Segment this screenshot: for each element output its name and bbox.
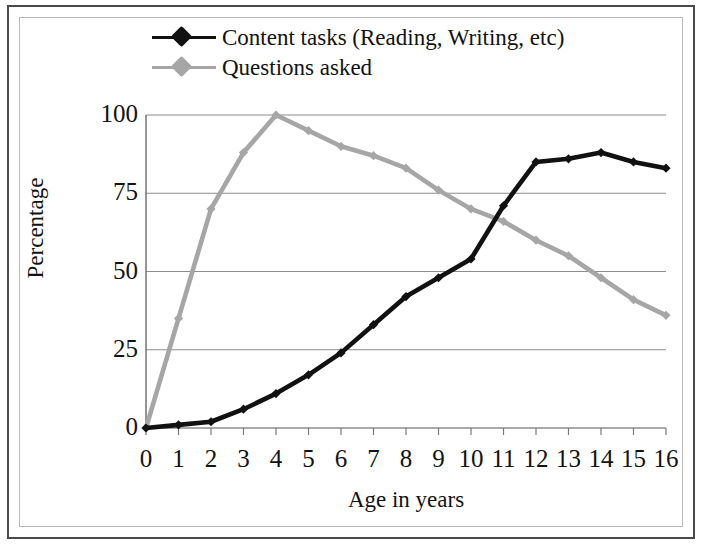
- data-point-marker: [564, 154, 573, 163]
- chart-figure: Content tasks (Reading, Writing, etc) Qu…: [0, 0, 702, 545]
- y-tick-label: 100: [78, 101, 138, 126]
- series-line: [146, 153, 666, 428]
- data-point-marker: [661, 164, 670, 173]
- y-axis-title: Percentage: [23, 148, 49, 308]
- y-tick-label: 0: [78, 414, 138, 439]
- x-axis-tick-labels: 012345678910111213141516: [146, 438, 666, 472]
- plot-area: 0255075100 012345678910111213141516 Perc…: [0, 0, 702, 545]
- y-tick-label: 50: [78, 258, 138, 283]
- y-tick-label: 75: [78, 179, 138, 204]
- y-tick-label: 25: [78, 336, 138, 361]
- x-tick-label: 16: [646, 446, 686, 471]
- x-tick-marks: [146, 428, 666, 435]
- x-axis-title: Age in years: [146, 487, 666, 513]
